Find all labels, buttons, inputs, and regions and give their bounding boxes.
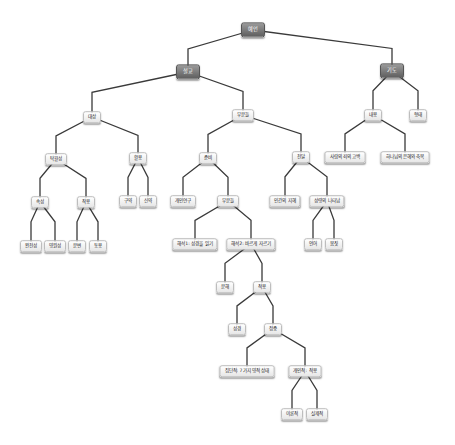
tree-node[interactable]: 활용 [129, 152, 147, 164]
tree-node[interactable]: 부분들 [232, 109, 254, 121]
tree-node[interactable]: 구약 [119, 195, 137, 207]
tree-edge [253, 30, 392, 71]
tree-node[interactable]: 부분들 [217, 195, 239, 207]
tree-node[interactable]: 집단적: 7가지 영적 상태 [220, 365, 275, 377]
tree-node[interactable]: 성경 [228, 323, 246, 335]
tree-node[interactable]: 이론적 [281, 408, 303, 420]
tree-edge [92, 72, 188, 117]
tree-node[interactable]: 해석1: 성경을 읽기 [172, 238, 217, 250]
tree-node[interactable]: 개인적: 적용 [288, 365, 321, 377]
tree-node[interactable]: 사람의 죄의 고백 [325, 151, 366, 163]
tree-node[interactable]: 작용 [77, 196, 95, 208]
tree-node[interactable]: 예언 [241, 22, 265, 37]
tree-node[interactable]: 속성 [31, 196, 49, 208]
tree-node[interactable]: 성령의 나타남 [309, 195, 344, 207]
tree-node[interactable]: 적용 [253, 281, 271, 293]
tree-node[interactable]: 내용 [364, 109, 382, 121]
mind-map-tree: 예언설교기도대상부분들내용형태탁월성활용준비전달사람의 죄의 고백하나님의 은혜… [0, 0, 455, 445]
tree-node[interactable]: 몸짓 [325, 238, 343, 250]
tree-node[interactable]: 인간의 지혜 [269, 195, 300, 207]
tree-node[interactable]: 언어 [304, 238, 322, 250]
tree-node[interactable]: 탁월성 [45, 153, 67, 165]
tree-node[interactable]: 분해 [216, 281, 234, 293]
tree-node[interactable]: 영원성 [44, 240, 66, 252]
tree-node[interactable]: 분변 [68, 240, 86, 252]
tree-node[interactable]: 전달 [292, 151, 310, 163]
tree-node[interactable]: 개인연구 [170, 195, 196, 207]
tree-node[interactable]: 완전성 [20, 240, 42, 252]
tree-node[interactable]: 동용 [89, 240, 107, 252]
tree-node[interactable]: 하나님의 은혜와 축복 [381, 151, 430, 163]
tree-node[interactable]: 준비 [199, 152, 217, 164]
tree-node[interactable]: 실제적 [306, 408, 328, 420]
tree-node[interactable]: 대상 [83, 111, 101, 123]
tree-node[interactable]: 기도 [380, 63, 404, 78]
tree-node[interactable]: 설교 [176, 64, 200, 79]
tree-node[interactable]: 신약 [139, 195, 157, 207]
tree-node[interactable]: 형태 [409, 109, 427, 121]
tree-node[interactable]: 정중 [264, 323, 282, 335]
tree-node[interactable]: 해석2: 바르게 자르기 [226, 238, 275, 250]
